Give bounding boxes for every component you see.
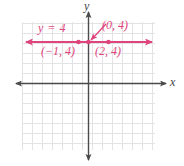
point-label-0-4: (0, 4) xyxy=(102,19,128,31)
point-neg1-4 xyxy=(76,40,81,45)
x-axis-label: x xyxy=(170,76,175,88)
point-label-2-4: (2, 4) xyxy=(95,45,121,57)
point-0-4 xyxy=(86,40,91,45)
coordinate-plane-figure: y = 4 (0, 4) (−1, 4) (2, 4) x y xyxy=(0,0,184,166)
y-axis-label: y xyxy=(84,0,89,12)
graph-canvas xyxy=(0,0,184,166)
equation-label: y = 4 xyxy=(38,22,66,34)
point-label-neg1-4: (−1, 4) xyxy=(41,45,75,57)
